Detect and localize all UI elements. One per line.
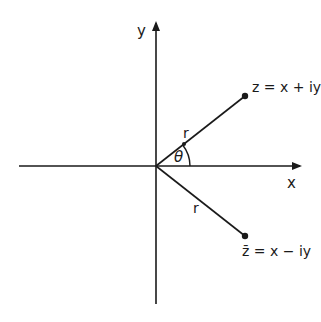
x-axis-label: x [287,174,296,192]
point-z-bar [242,233,248,239]
angle-arc-tick [182,142,186,146]
y-axis-label: y [137,22,146,40]
point-z-bar-label: z̄ = x − iy [242,243,311,259]
argand-diagram: y x z = x + iy z̄ = x − iy r r θ [0,0,321,322]
r-label-upper: r [183,125,189,141]
r-label-lower: r [193,200,199,216]
segment-r-upper [156,96,245,166]
segment-r-lower [156,166,245,236]
angle-arc [183,145,190,166]
point-z-label: z = x + iy [252,79,321,95]
point-z [242,93,248,99]
theta-label: θ [174,148,183,166]
